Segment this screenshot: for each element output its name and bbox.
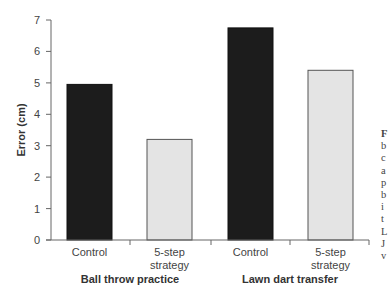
category-label: strategy <box>311 259 351 271</box>
bar-lawn-control <box>228 28 273 240</box>
category-label: Control <box>72 246 107 258</box>
caption-char: p <box>381 177 386 188</box>
group-label-ball-throw: Ball throw practice <box>81 273 179 285</box>
bar-ball-control <box>67 84 112 240</box>
figure-caption-fragment: F b c a p b i t L J v <box>381 128 387 262</box>
y-tick-label: 7 <box>34 14 40 26</box>
y-tick-label: 0 <box>34 234 40 246</box>
category-label: Control <box>233 246 268 258</box>
caption-char: v <box>381 250 386 261</box>
bar-lawn-5step <box>308 70 353 240</box>
category-label: 5-step <box>154 246 185 258</box>
caption-char: b <box>381 189 386 200</box>
y-tick-label: 2 <box>34 171 40 183</box>
caption-char: i <box>381 201 384 212</box>
y-tick-label: 1 <box>34 203 40 215</box>
y-axis-label: Error (cm) <box>15 103 27 157</box>
bar-chart: 0 1 2 3 4 5 6 7 Error (cm) Control 5-ste… <box>0 0 391 300</box>
x-ticks <box>130 240 369 245</box>
caption-char: J <box>381 238 385 249</box>
caption-char: a <box>381 165 386 176</box>
caption-char: t <box>381 213 384 224</box>
y-tick-label: 4 <box>34 108 40 120</box>
caption-char: F <box>381 128 387 139</box>
category-label: 5-step <box>315 246 346 258</box>
caption-char: c <box>381 152 386 163</box>
y-ticks <box>46 20 51 240</box>
y-tick-label: 3 <box>34 140 40 152</box>
caption-char: b <box>381 140 386 151</box>
caption-char: L <box>381 226 387 237</box>
y-tick-label: 5 <box>34 77 40 89</box>
group-label-lawn-dart: Lawn dart transfer <box>242 273 339 285</box>
category-label: strategy <box>150 259 190 271</box>
bar-ball-5step <box>147 139 192 240</box>
y-tick-label: 6 <box>34 45 40 57</box>
